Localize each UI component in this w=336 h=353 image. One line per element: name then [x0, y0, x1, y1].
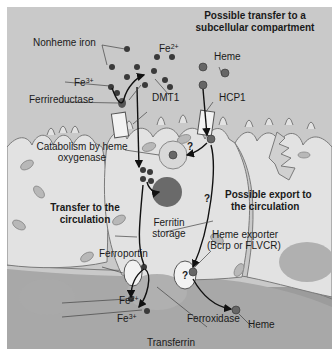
- dmt1-transporter: [111, 112, 128, 138]
- label-fe3-bottom: Fe3+: [117, 313, 137, 324]
- label-heme-exporter-2: (Bcrp or FLVCR): [207, 240, 281, 251]
- label-hcp1: HCP1: [219, 92, 246, 103]
- label-transfer-1: Transfer to the: [45, 202, 125, 213]
- question-mark-heme-exporter: ?: [182, 270, 188, 281]
- label-fe2-bottom: Fe2+: [119, 295, 139, 306]
- label-ferrireductase: Ferrireductase: [29, 94, 93, 105]
- question-mark-export: ?: [204, 193, 210, 204]
- label-ferroxidase: Ferroxidase: [187, 313, 240, 324]
- label-heme-top: Heme: [214, 51, 241, 62]
- title-line-1: Possible transfer to a: [180, 10, 330, 21]
- label-ferroportin: Ferroportin: [99, 248, 148, 259]
- label-fe2-top: Fe2+: [159, 43, 179, 54]
- label-catabolism-1: Catabolism by heme: [32, 141, 132, 152]
- label-possible-export-2: the circulation: [231, 201, 299, 212]
- iron-absorption-diagram: Possible transfer to a subcellular compa…: [7, 7, 332, 349]
- label-nonheme-iron: Nonheme iron: [33, 37, 96, 48]
- label-heme-exporter-1: Heme exporter: [212, 229, 278, 240]
- label-fe3-top: Fe3+: [74, 77, 94, 88]
- question-mark-heme-oxygenase: ?: [187, 141, 193, 152]
- label-heme-bottom: Heme: [248, 319, 275, 330]
- label-ferritin-2: storage: [147, 228, 191, 239]
- title-line-2: subcellular compartment: [180, 22, 330, 33]
- label-ferritin-1: Ferritin: [147, 217, 191, 228]
- label-transfer-2: circulation: [45, 214, 125, 225]
- label-possible-export-1: Possible export to: [225, 189, 312, 200]
- nucleus: [19, 279, 75, 315]
- label-catabolism-2: oxygenase: [32, 152, 132, 163]
- label-dmt1: DMT1: [152, 92, 179, 103]
- diagram-artwork: [7, 7, 332, 349]
- label-transferrin: Transferrin: [147, 337, 195, 348]
